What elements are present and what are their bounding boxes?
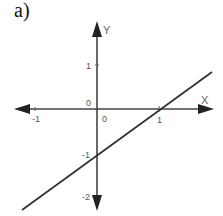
y-tick-label-1: 1 — [86, 61, 91, 71]
y-axis-label: Y — [103, 24, 111, 36]
x-tick-label-minus1: -1 — [32, 114, 40, 124]
x-axis-left-arrow-icon — [14, 104, 30, 114]
y-tick-label-minus1: -1 — [82, 150, 90, 160]
y-axis-up-arrow-icon — [92, 21, 102, 37]
series-line — [22, 72, 212, 210]
y-tick-label-minus2: -2 — [82, 192, 90, 202]
x-tick-label-0: 0 — [102, 114, 107, 124]
y-axis — [92, 21, 102, 211]
x-tick-label-1: 1 — [157, 115, 162, 125]
line-graph: -1 0 1 1 0 -1 -2 Y X — [0, 0, 223, 216]
x-axis — [14, 104, 214, 114]
y-axis-down-arrow-icon — [92, 195, 102, 211]
y-tick-label-0: 0 — [86, 98, 91, 108]
x-axis-label: X — [201, 94, 209, 106]
